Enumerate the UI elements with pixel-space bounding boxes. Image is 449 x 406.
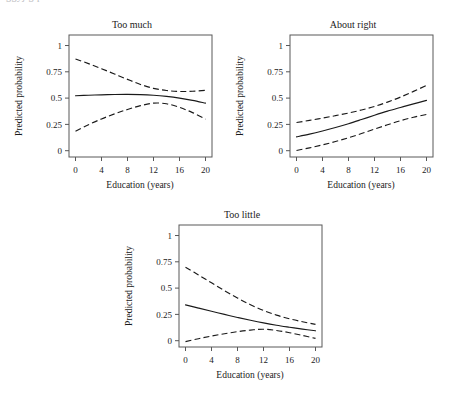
y-tick-label: 0.5 — [272, 93, 284, 103]
y-tick-label: 0.25 — [156, 310, 172, 320]
plot-area-1: 04812162000.250.50.751 — [267, 35, 433, 175]
plot-frame — [290, 35, 433, 157]
y-axis-label: Predicted probability — [14, 56, 24, 136]
y-tick-label: 1 — [279, 41, 284, 51]
x-tick-label: 12 — [370, 165, 379, 175]
x-tick-label: 12 — [149, 165, 158, 175]
panel-too-much-svg: Too much 04812162000.250.50.751 Educatio… — [8, 16, 220, 196]
panel-title: About right — [330, 19, 377, 30]
panel-too-much: Too much 04812162000.250.50.751 Educatio… — [8, 16, 220, 196]
y-tick-label: 0.5 — [51, 93, 63, 103]
x-axis-label: Education (years) — [216, 370, 283, 381]
plot-area-0: 04812162000.250.50.751 — [46, 35, 212, 175]
x-tick-label: 16 — [175, 165, 185, 175]
x-tick-label: 12 — [259, 355, 268, 365]
x-tick-label: 4 — [320, 165, 325, 175]
y-tick-label: 0.5 — [161, 283, 173, 293]
plot-area-2: 04812162000.250.50.751 — [156, 225, 322, 365]
y-tick-label: 1 — [58, 41, 63, 51]
plot-frame — [69, 35, 212, 157]
x-tick-label: 20 — [422, 165, 432, 175]
x-tick-label: 0 — [294, 165, 299, 175]
panel-too-little-svg: Too little 04812162000.250.50.751 Educat… — [118, 206, 330, 396]
y-tick-label: 0.25 — [267, 120, 283, 130]
y-axis-label: Predicted probability — [124, 246, 134, 326]
x-tick-label: 8 — [125, 165, 130, 175]
x-tick-label: 8 — [235, 355, 240, 365]
upper-ci-curve — [186, 267, 316, 324]
predicted-probability-curve — [76, 94, 206, 103]
y-tick-label: 1 — [168, 231, 173, 241]
x-tick-label: 20 — [201, 165, 211, 175]
x-tick-label: 16 — [285, 355, 295, 365]
y-tick-label: 0.25 — [46, 120, 62, 130]
upper-ci-curve — [76, 59, 206, 92]
y-tick-label: 0.75 — [46, 67, 62, 77]
lower-ci-curve — [186, 329, 316, 341]
x-tick-label: 4 — [99, 165, 104, 175]
x-tick-label: 0 — [73, 165, 78, 175]
x-tick-label: 8 — [346, 165, 351, 175]
y-axis-label: Predicted probability — [235, 56, 245, 136]
panel-about-right-svg: About right 04812162000.250.50.751 Educa… — [229, 16, 441, 196]
y-tick-label: 0.75 — [156, 257, 172, 267]
x-tick-label: 0 — [183, 355, 188, 365]
x-tick-label: 16 — [396, 165, 406, 175]
panel-title: Too little — [224, 209, 261, 220]
panel-about-right: About right 04812162000.250.50.751 Educa… — [229, 16, 441, 196]
predicted-probability-curve — [186, 305, 316, 331]
x-axis-label: Education (years) — [106, 180, 173, 191]
x-tick-label: 4 — [209, 355, 214, 365]
y-tick-label: 0 — [58, 146, 63, 156]
upper-ci-curve — [297, 85, 427, 122]
figure-predicted-probability-panels: Too much 04812162000.250.50.751 Educatio… — [0, 0, 449, 406]
panel-title: Too much — [112, 19, 152, 30]
x-tick-label: 20 — [311, 355, 321, 365]
lower-ci-curve — [76, 103, 206, 131]
y-tick-label: 0 — [279, 146, 284, 156]
panel-too-little: Too little 04812162000.250.50.751 Educat… — [118, 206, 330, 396]
x-axis-label: Education (years) — [327, 180, 394, 191]
y-tick-label: 0 — [168, 336, 173, 346]
y-tick-label: 0.75 — [267, 67, 283, 77]
